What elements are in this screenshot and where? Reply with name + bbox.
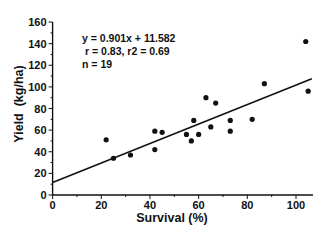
y-tick-label: 40 — [34, 146, 46, 158]
x-tick-label: 100 — [287, 199, 305, 211]
y-tick-label: 20 — [34, 167, 46, 179]
y-tick-label: 120 — [28, 59, 46, 71]
data-point — [228, 129, 233, 134]
data-point — [152, 129, 157, 134]
chart-svg: 020406080100120140160020406080100 y = 0.… — [0, 0, 324, 236]
data-point — [208, 124, 213, 129]
n-label: n = 19 — [82, 58, 112, 70]
data-point — [184, 132, 189, 137]
data-point — [111, 156, 116, 161]
data-point — [189, 138, 194, 143]
fit-line — [53, 79, 312, 183]
x-axis-title: Survival (%) — [136, 211, 208, 225]
x-tick-label: 0 — [50, 199, 56, 211]
x-tick-label: 20 — [95, 199, 107, 211]
data-point — [213, 101, 218, 106]
y-tick-label: 140 — [28, 38, 46, 50]
data-points — [104, 39, 311, 161]
data-point — [306, 89, 311, 94]
stats-label: r = 0.83, r2 = 0.69 — [85, 45, 170, 57]
data-point — [128, 152, 133, 157]
y-tick-label: 100 — [28, 81, 46, 93]
y-tick-label: 80 — [34, 103, 46, 115]
x-tick-label: 60 — [193, 199, 205, 211]
y-tick-label: 160 — [28, 16, 46, 28]
data-point — [228, 118, 233, 123]
data-point — [262, 81, 267, 86]
scatter-chart: 020406080100120140160020406080100 y = 0.… — [0, 0, 324, 236]
x-tick-label: 80 — [241, 199, 253, 211]
data-point — [203, 95, 208, 100]
data-point — [303, 39, 308, 44]
data-point — [152, 147, 157, 152]
data-point — [104, 137, 109, 142]
y-tick-label: 60 — [34, 124, 46, 136]
equation-label: y = 0.901x + 11.582 — [82, 32, 176, 44]
x-tick-label: 40 — [144, 199, 156, 211]
data-point — [160, 130, 165, 135]
data-point — [250, 117, 255, 122]
regression-line — [53, 79, 312, 183]
y-axis-title: Yield (kg/ha) — [12, 65, 26, 142]
data-point — [191, 118, 196, 123]
y-tick-label: 0 — [40, 189, 46, 201]
data-point — [196, 132, 201, 137]
